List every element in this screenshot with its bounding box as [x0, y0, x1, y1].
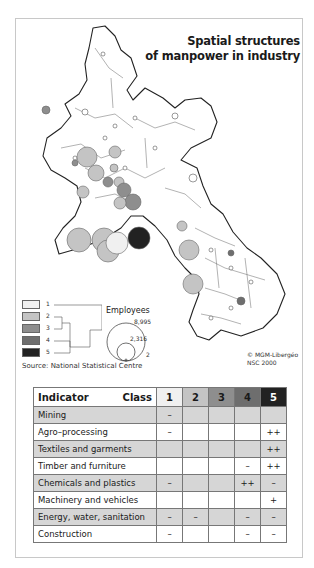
class-5-swatch: [22, 348, 40, 357]
proportional-circle-legend: [106, 320, 150, 364]
value-cell: [183, 441, 209, 458]
indicator-cell: Textiles and garments: [34, 441, 157, 458]
table-row: Construction – – –: [34, 526, 287, 543]
class-5-header: 5: [261, 388, 287, 407]
employees-legend-title: Employees: [106, 306, 150, 315]
value-cell: –: [261, 475, 287, 492]
value-cell: –: [261, 509, 287, 526]
value-cell: ++: [261, 424, 287, 441]
table-row: Agro–processing – ++: [34, 424, 287, 441]
value-cell: –: [235, 509, 261, 526]
value-cell: –: [235, 526, 261, 543]
table-row: Timber and furniture – ++: [34, 458, 287, 475]
value-cell: [183, 407, 209, 424]
value-cell: [235, 492, 261, 509]
table-header-row: Indicator Class 1 2 3 4 5: [34, 388, 287, 407]
value-cell: [209, 441, 235, 458]
value-cell: ++: [261, 458, 287, 475]
cluster-dendrogram: [52, 300, 102, 360]
indicator-cell: Agro–processing: [34, 424, 157, 441]
value-cell: [209, 407, 235, 424]
indicator-header: Indicator Class: [34, 388, 157, 407]
value-cell: [183, 475, 209, 492]
value-cell: ++: [235, 475, 261, 492]
value-cell: –: [261, 526, 287, 543]
value-cell: [183, 492, 209, 509]
employees-min-value: 2: [146, 351, 150, 358]
value-cell: –: [157, 509, 183, 526]
value-cell: [183, 424, 209, 441]
class-2-swatch: [22, 312, 40, 321]
value-cell: [209, 475, 235, 492]
laos-district-map: [15, 18, 303, 348]
value-cell: [209, 458, 235, 475]
value-cell: –: [235, 458, 261, 475]
indicator-cell: Timber and furniture: [34, 458, 157, 475]
value-cell: [157, 458, 183, 475]
value-cell: –: [183, 509, 209, 526]
class-5-label: 5: [46, 348, 50, 355]
table-row: Energy, water, sanitation – – – –: [34, 509, 287, 526]
class-3-header: 3: [209, 388, 235, 407]
class-1-swatch: [22, 300, 40, 309]
class-1-header: 1: [157, 388, 183, 407]
indicator-cell: Machinery and vehicles: [34, 492, 157, 509]
class-header-label: Class: [123, 392, 152, 403]
class-2-header: 2: [183, 388, 209, 407]
value-cell: –: [157, 475, 183, 492]
value-cell: [183, 458, 209, 475]
indicator-cell: Mining: [34, 407, 157, 424]
industry-indicator-table: Indicator Class 1 2 3 4 5 Mining – Agro–…: [33, 387, 287, 543]
credit-line-2: NSC 2000: [247, 359, 298, 367]
table-row: Machinery and vehicles +: [34, 492, 287, 509]
value-cell: [209, 424, 235, 441]
indicator-header-label: Indicator: [38, 392, 89, 403]
value-cell: [157, 492, 183, 509]
class-4-header: 4: [235, 388, 261, 407]
value-cell: ++: [261, 441, 287, 458]
value-cell: –: [157, 424, 183, 441]
value-cell: [209, 509, 235, 526]
value-cell: [261, 407, 287, 424]
class-2-label: 2: [46, 312, 50, 319]
credit-line-1: © MGM-Libergéo: [247, 351, 298, 359]
map-credit: © MGM-Libergéo NSC 2000: [247, 351, 298, 367]
class-1-label: 1: [46, 300, 50, 307]
employees-mid-value: 2,316: [130, 335, 147, 342]
value-cell: [209, 492, 235, 509]
value-cell: [235, 407, 261, 424]
table-row: Mining –: [34, 407, 287, 424]
table-row: Textiles and garments ++: [34, 441, 287, 458]
indicator-cell: Construction: [34, 526, 157, 543]
indicator-cell: Energy, water, sanitation: [34, 509, 157, 526]
table-row: Chemicals and plastics – ++ –: [34, 475, 287, 492]
class-3-swatch: [22, 324, 40, 333]
indicator-cell: Chemicals and plastics: [34, 475, 157, 492]
class-3-label: 3: [46, 324, 50, 331]
class-4-swatch: [22, 336, 40, 345]
value-cell: [183, 526, 209, 543]
value-cell: [235, 441, 261, 458]
value-cell: [209, 526, 235, 543]
employees-max-value: 8,995: [134, 318, 151, 325]
class-4-label: 4: [46, 336, 50, 343]
value-cell: +: [261, 492, 287, 509]
value-cell: –: [157, 526, 183, 543]
source-note: Source: National Statistical Centre: [22, 362, 142, 370]
value-cell: –: [157, 407, 183, 424]
value-cell: [157, 441, 183, 458]
value-cell: [235, 424, 261, 441]
